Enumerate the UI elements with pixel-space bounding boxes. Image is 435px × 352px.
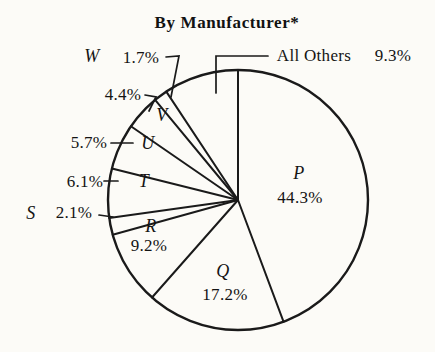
slice-boundary-t (109, 200, 238, 218)
slice-pct-s: 2.1% (56, 203, 93, 223)
slice-label-p: P (293, 163, 304, 184)
slice-pct-q: 17.2% (202, 285, 247, 305)
pie-chart-figure: By Manufacturer* W 1.7% All Others 9.3% … (0, 0, 435, 352)
slice-label-v: V (156, 105, 167, 126)
slice-label-q: Q (216, 261, 229, 282)
slice-boundary-u (112, 169, 238, 201)
slice-pct-all-others: 9.3% (375, 46, 412, 66)
slice-label-u: U (141, 133, 154, 154)
slice-label-r: R (145, 216, 156, 237)
slice-boundary-all-others (166, 92, 238, 200)
slice-pct-v: 4.4% (105, 85, 142, 105)
slice-label-t: T (139, 171, 149, 192)
slice-pct-t: 6.1% (67, 172, 104, 192)
slice-boundary-s (113, 200, 238, 235)
slice-pct-u: 5.7% (71, 133, 108, 153)
all-others-callout-line (216, 56, 268, 93)
chart-title: By Manufacturer* (155, 13, 300, 33)
slice-label-s: S (26, 203, 35, 224)
slice-label-all-others: All Others (277, 46, 351, 66)
slice-pct-p: 44.3% (277, 188, 322, 208)
slice-pct-r: 9.2% (131, 236, 168, 256)
slice-pct-w: 1.7% (123, 48, 160, 68)
slice-label-w: W (84, 46, 99, 67)
